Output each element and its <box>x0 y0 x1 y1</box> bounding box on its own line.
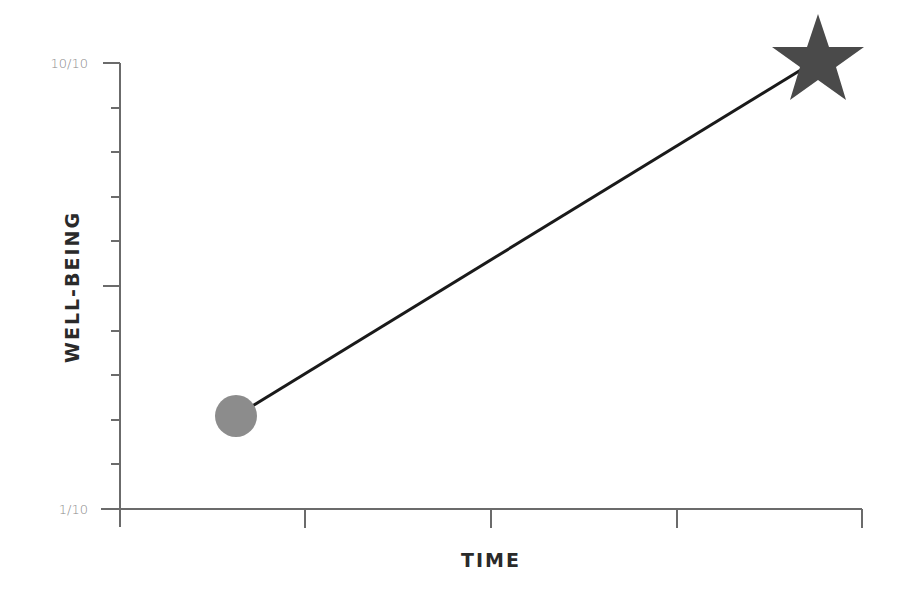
x-axis-title: TIME <box>461 549 521 571</box>
y-tick-label-bottom: 1/10 <box>59 502 88 517</box>
start-point-circle-icon <box>215 395 257 437</box>
y-tick-label-top: 10/10 <box>51 56 88 71</box>
y-axis-title: WELL-BEING <box>61 211 83 363</box>
trajectory-line <box>236 57 822 416</box>
x-ticks <box>305 509 862 528</box>
chart: 10/10 1/10 TIME WELL-BEING <box>0 0 908 611</box>
goal-star-icon <box>772 14 864 100</box>
y-ticks <box>103 63 120 464</box>
